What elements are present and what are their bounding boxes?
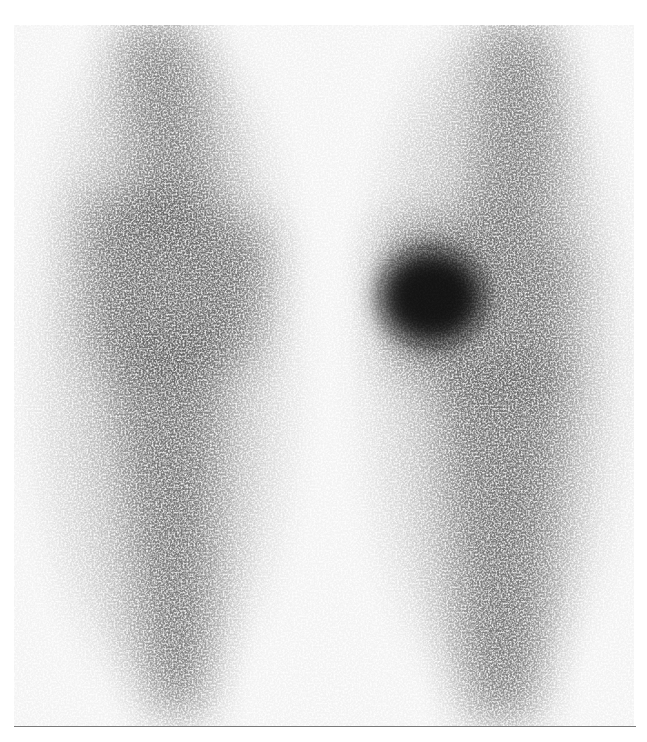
scan-graphic — [14, 25, 634, 727]
scan-image — [14, 25, 634, 727]
right-knee-hotspot — [380, 249, 484, 345]
bottom-rule — [14, 726, 636, 727]
speckle-noise — [14, 25, 634, 727]
